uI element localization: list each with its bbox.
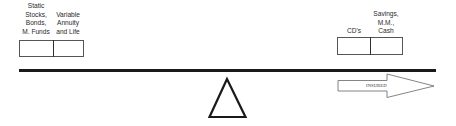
insured-arrow-label: INSURED <box>366 83 387 88</box>
seesaw-diagram: Static Stocks, Bonds, M. Funds Variable … <box>0 0 456 126</box>
fulcrum-triangle-icon <box>210 79 246 117</box>
diagram-shapes <box>0 0 456 126</box>
